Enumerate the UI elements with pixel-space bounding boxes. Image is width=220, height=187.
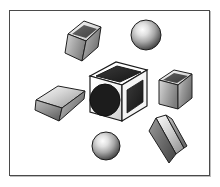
shape-center-open-cube bbox=[90, 62, 147, 121]
scene-root: 3D grayscale shapes scene bbox=[0, 0, 220, 187]
shape-top-left-cube bbox=[65, 21, 101, 61]
right-cube-front-face bbox=[159, 80, 178, 109]
shape-left-slab bbox=[35, 86, 85, 121]
shape-bottom-right-prism bbox=[149, 115, 187, 163]
open-cube-circular-hole bbox=[90, 84, 120, 116]
shape-top-sphere bbox=[131, 20, 161, 50]
sphere-body bbox=[92, 132, 120, 160]
sphere-body bbox=[131, 20, 161, 50]
shape-right-cube bbox=[159, 70, 192, 109]
shape-bottom-sphere bbox=[92, 132, 120, 160]
shapes-canvas bbox=[0, 0, 220, 187]
